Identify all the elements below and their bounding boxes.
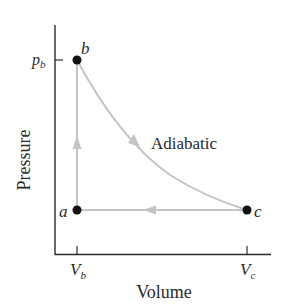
point-a [73, 206, 82, 215]
arrow-up-icon [73, 136, 82, 149]
point-a-label: a [59, 202, 68, 221]
x-axis-label: Volume [136, 282, 192, 302]
arrow-down-right-icon [128, 134, 140, 147]
point-c-label: c [254, 202, 262, 221]
pv-diagram: b a c Adiabatic pb Vb Vc Volume Pressure [0, 0, 285, 308]
y-axis-label: Pressure [14, 130, 34, 191]
adiabatic-label: Adiabatic [151, 134, 218, 153]
point-b-label: b [81, 39, 90, 58]
arrow-left-icon [143, 206, 156, 215]
pb-tick-label: pb [31, 51, 46, 70]
point-c [243, 206, 252, 215]
vb-tick-label: Vb [70, 260, 86, 281]
vc-tick-label: Vc [240, 260, 255, 281]
